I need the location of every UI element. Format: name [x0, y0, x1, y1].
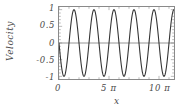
plot-area [58, 6, 175, 80]
y-tick-label: -0.5 [1, 56, 55, 65]
chart-figure: Velocity 1 0.5 0 -0.5 -1 0 5 π 10 π x [0, 0, 184, 112]
y-tick-label: -1 [1, 73, 55, 82]
x-tick-label: 5 π [89, 83, 129, 93]
y-axis-tick-labels: 1 0.5 0 -0.5 -1 [0, 0, 55, 112]
x-tick-label: 10 π [140, 83, 180, 93]
x-tick-label: 0 [38, 83, 78, 93]
y-tick-label: 1 [1, 4, 55, 13]
y-tick-label: 0.5 [1, 21, 55, 30]
plot-canvas [59, 7, 174, 79]
x-axis-title: x [97, 96, 137, 106]
y-tick-label: 0 [1, 39, 55, 48]
x-axis-tick-labels: 0 5 π 10 π [0, 83, 184, 95]
